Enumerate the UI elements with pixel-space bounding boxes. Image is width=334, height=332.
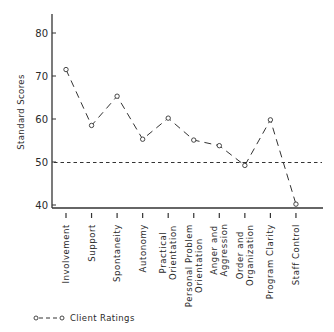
- y-axis-title: Standard Scores: [16, 74, 26, 150]
- data-point-marker: [243, 163, 247, 167]
- data-point-marker: [294, 202, 298, 206]
- y-tick-label: 40: [35, 200, 48, 211]
- y-tick-label: 80: [35, 28, 48, 39]
- category-label: Order andOrganization: [235, 224, 255, 286]
- category-label: Involvement: [61, 224, 71, 284]
- category-label: Spontaneity: [112, 224, 122, 282]
- y-tick-label: 50: [35, 157, 48, 168]
- legend-line-marker-icon: [33, 314, 65, 322]
- data-point-marker: [115, 94, 119, 98]
- category-label: PracticalOrientation: [158, 225, 178, 280]
- data-point-marker: [140, 137, 144, 141]
- category-label: Anger andAggression: [209, 224, 229, 277]
- data-point-marker: [64, 67, 68, 71]
- data-point-marker: [217, 143, 221, 147]
- category-label: Autonomy: [138, 224, 148, 272]
- data-point-marker: [166, 116, 170, 120]
- y-tick-label: 70: [35, 71, 48, 82]
- data-point-marker: [89, 123, 93, 127]
- legend: Client Ratings: [33, 313, 135, 323]
- client-ratings-line: [66, 70, 296, 205]
- client-ratings-markers: [64, 67, 298, 206]
- category-label: Staff Control: [291, 224, 301, 285]
- category-labels: InvolvementSupportSpontaneityAutonomyPra…: [61, 224, 301, 308]
- category-label: Program Clarity: [265, 224, 275, 299]
- x-axis-ticks: [66, 213, 296, 218]
- line-chart: 4050607080 Standard Scores InvolvementSu…: [0, 0, 334, 332]
- y-tick-label: 60: [35, 114, 48, 125]
- data-point-marker: [192, 138, 196, 142]
- data-point-marker: [268, 118, 272, 122]
- legend-label: Client Ratings: [70, 313, 135, 323]
- category-label: Personal ProblemOrientation: [184, 224, 204, 307]
- y-axis-ticks: 4050607080: [35, 28, 56, 211]
- category-label: Support: [87, 224, 97, 262]
